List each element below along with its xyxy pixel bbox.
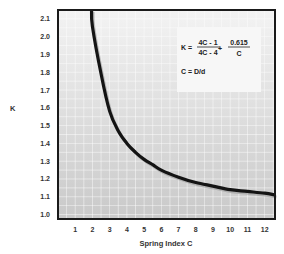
x-tick-label: 5 [142,226,146,233]
x-tick-label: 4 [125,226,129,233]
formula-frac2-numerator: 0.615 [230,39,248,46]
formula-frac1-numerator: 4C - 1 [198,39,217,46]
x-tick-label: 11 [244,226,252,233]
y-tick-label: 1.7 [40,87,50,94]
formula-frac1-denominator: 4C - 4 [198,49,217,56]
y-tick-label: 1.6 [40,104,50,111]
formula-definition: C = D/d [181,68,205,75]
formula-box [177,27,261,92]
x-tick-label: 2 [90,226,94,233]
y-tick-label: 1.2 [40,175,50,182]
y-tick-label: 1.9 [40,51,50,58]
y-axis-label: K [10,104,16,113]
y-tick-label: 1.5 [40,122,50,129]
chart: 1.01.11.21.31.41.51.61.71.81.92.02.1 123… [0,0,284,254]
y-tick-label: 2.0 [40,33,50,40]
y-tick-label: 1.0 [40,211,50,218]
x-tick-label: 7 [177,226,181,233]
x-tick-label: 9 [211,226,215,233]
x-axis-label: Spring Index C [140,239,194,248]
y-axis-ticks: 1.01.11.21.31.41.51.61.71.81.92.02.1 [40,15,50,218]
x-tick-label: 3 [108,226,112,233]
y-tick-label: 1.4 [40,140,50,147]
x-tick-label: 8 [194,226,198,233]
y-tick-label: 1.8 [40,69,50,76]
x-axis-ticks: 123456789101112 [73,226,268,233]
formula-lhs: K = [181,44,192,51]
x-tick-label: 10 [226,226,234,233]
formula-plus: + [218,45,222,52]
y-tick-label: 1.3 [40,158,50,165]
y-tick-label: 1.1 [40,193,50,200]
x-tick-label: 12 [261,226,269,233]
x-tick-label: 6 [159,226,163,233]
formula-frac2-denominator: C [236,50,241,57]
y-tick-label: 2.1 [40,15,50,22]
x-tick-label: 1 [73,226,77,233]
